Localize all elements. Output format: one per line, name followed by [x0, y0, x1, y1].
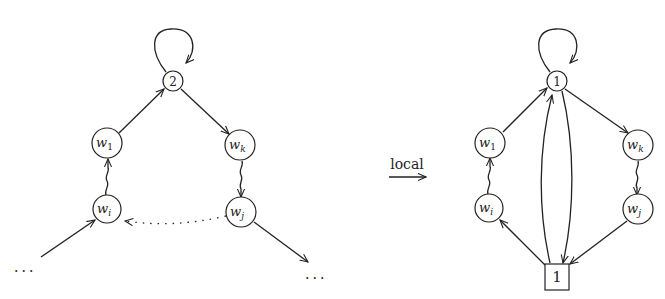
left-node-w1: w1 — [92, 128, 122, 158]
right-edge-box-to-1 — [541, 95, 552, 263]
left-w1-base: w — [96, 135, 107, 150]
right-node-wj: wj — [623, 194, 653, 224]
left-ellipsis-bottom-left: ... — [14, 259, 36, 275]
right-w1-sub: 1 — [490, 142, 496, 152]
left-path-wi-to-w1 — [106, 159, 109, 195]
left-node-wj: wj — [226, 197, 256, 227]
left-graph: 2 w1 wk wi wj ... ... — [14, 29, 327, 282]
right-node-wi: wi — [475, 194, 503, 222]
right-edge-wj-to-box — [570, 221, 627, 264]
left-node-2: 2 — [163, 71, 183, 91]
right-edge-box-to-wi — [500, 220, 545, 265]
left-path-wk-to-wj — [240, 161, 242, 197]
right-wj-base: w — [627, 201, 638, 216]
left-ellipsis-bottom-right: ... — [305, 266, 327, 282]
left-wj-base: w — [230, 204, 241, 219]
left-wk-sub: k — [240, 144, 245, 154]
right-box-node-1: 1 — [545, 264, 569, 290]
left-wi-sub: i — [108, 208, 111, 218]
right-path-wk-to-wj — [636, 161, 638, 195]
right-self-loop-edge — [539, 29, 577, 72]
local-label: local — [390, 156, 424, 172]
left-wi-base: w — [97, 201, 108, 216]
left-edge-ellipsis-to-wi — [41, 220, 95, 257]
left-edge-w1-to-2 — [119, 89, 164, 133]
right-box-node-label: 1 — [552, 268, 562, 286]
diagram-canvas: 2 w1 wk wi wj ... ... local — [0, 0, 665, 299]
right-wi-base: w — [479, 200, 490, 215]
right-graph: 1 w1 wk wi wj 1 — [475, 29, 653, 290]
local-transform: local — [389, 156, 426, 177]
left-edge-2-to-wk — [181, 89, 229, 134]
right-edge-w1-to-1 — [503, 88, 547, 132]
right-node-1-label: 1 — [553, 75, 561, 89]
right-w1-base: w — [479, 135, 490, 150]
left-node-wi: wi — [93, 195, 121, 223]
right-node-w1: w1 — [475, 128, 505, 158]
right-wk-sub: k — [638, 144, 643, 154]
right-wi-sub: i — [490, 207, 493, 217]
right-path-wi-to-w1 — [488, 158, 491, 194]
right-wk-base: w — [627, 137, 638, 152]
right-node-1: 1 — [547, 71, 567, 91]
right-edge-1-to-box — [562, 91, 572, 263]
left-dotted-edge-wj-to-wi — [125, 216, 226, 224]
left-self-loop-edge — [155, 29, 193, 72]
left-w1-sub: 1 — [107, 142, 113, 152]
left-node-wk: wk — [225, 130, 255, 160]
right-edge-1-to-wk — [565, 89, 628, 133]
left-wk-base: w — [229, 137, 240, 152]
left-node-2-label: 2 — [169, 75, 177, 89]
right-node-wk: wk — [623, 130, 653, 160]
left-edge-wj-to-ellipsis — [254, 222, 308, 262]
